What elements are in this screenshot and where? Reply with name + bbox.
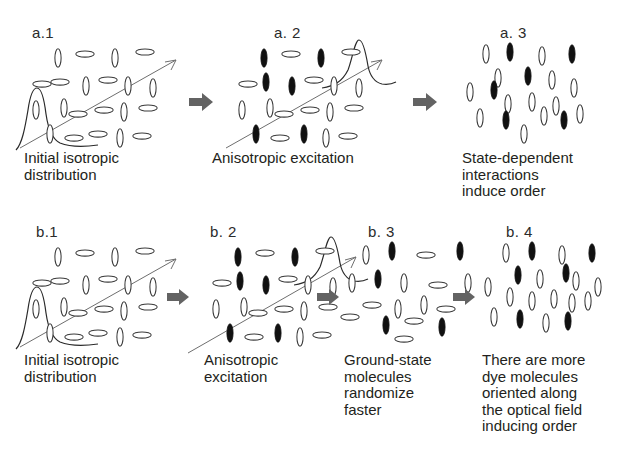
flow-arrow-b2-b3 — [316, 288, 340, 310]
molecule-ellipse — [51, 79, 69, 85]
molecule-ellipse — [125, 77, 131, 95]
molecule-ellipse — [529, 292, 535, 310]
molecule-ellipse — [553, 97, 559, 115]
molecule-ellipse — [267, 99, 273, 117]
molecule-ellipse — [549, 71, 555, 89]
molecule-ellipse — [316, 248, 334, 254]
molecule-ellipse — [237, 272, 243, 290]
molecule-ellipse — [33, 81, 51, 87]
molecule-ellipse — [517, 310, 523, 328]
molecule-ellipse — [263, 276, 269, 294]
molecule-ellipse — [139, 105, 157, 111]
panel-caption-a3: State-dependent interactions induce orde… — [462, 150, 632, 200]
molecule-ellipse — [136, 248, 154, 254]
molecule-ellipse — [577, 105, 583, 123]
panel-caption-b1: Initial isotropic distribution — [24, 352, 199, 385]
molecule-ellipse — [55, 49, 61, 67]
molecule-ellipse — [421, 296, 427, 314]
molecule-ellipse — [383, 316, 389, 334]
molecule-ellipse — [313, 332, 331, 338]
molecule-ellipse — [491, 81, 497, 99]
molecule-ellipse — [405, 318, 423, 324]
molecule-ellipse — [323, 129, 329, 147]
molecule-ellipse — [99, 77, 117, 83]
molecule-ellipse — [297, 328, 303, 346]
molecule-ellipse — [121, 302, 127, 320]
panel-stage-a1 — [12, 44, 192, 154]
molecule-ellipse — [89, 131, 107, 137]
molecule-ellipse — [401, 274, 407, 292]
molecule-ellipse — [569, 294, 575, 312]
molecule-ellipse — [33, 280, 51, 286]
molecule-ellipse — [69, 111, 87, 117]
molecule-ellipse — [429, 282, 447, 288]
molecule-ellipse — [417, 252, 435, 258]
molecule-ellipse — [89, 330, 107, 336]
molecule-ellipse — [331, 77, 337, 95]
molecule-ellipse — [227, 324, 233, 342]
molecule-ellipse — [565, 312, 571, 330]
molecule-ellipse — [305, 77, 323, 83]
molecule-ellipse — [363, 246, 369, 264]
panel-label-a2: a. 2 — [274, 24, 301, 41]
molecule-ellipse — [275, 111, 293, 117]
molecule-ellipse — [571, 79, 577, 97]
panel-label-b1: b.1 — [36, 223, 58, 240]
molecule-ellipse — [342, 49, 360, 55]
molecule-ellipse — [245, 334, 263, 340]
molecule-ellipse — [133, 332, 151, 338]
molecule-field-b4 — [476, 243, 626, 353]
panel-label-b2: b. 2 — [210, 223, 237, 240]
panel-caption-a2: Anisotropic excitation — [212, 150, 417, 167]
panel-caption-b2: Anisotropic excitation — [204, 352, 354, 385]
molecule-ellipse — [507, 288, 513, 306]
molecule-ellipse — [485, 278, 491, 296]
molecule-ellipse — [213, 300, 219, 318]
molecule-ellipse — [363, 302, 381, 308]
molecule-ellipse — [249, 310, 267, 316]
molecule-ellipse — [318, 49, 324, 67]
panel-stage-a2 — [218, 44, 398, 154]
molecule-ellipse — [301, 302, 307, 320]
molecule-ellipse — [65, 135, 83, 141]
distribution-curve-a1 — [16, 88, 98, 150]
molecule-ellipse — [585, 292, 591, 310]
molecule-ellipse — [327, 103, 333, 121]
molecule-ellipse — [507, 43, 513, 61]
molecule-ellipse — [69, 310, 87, 316]
molecule-ellipse — [521, 125, 527, 143]
molecule-ellipse — [345, 105, 363, 111]
molecule-ellipse — [213, 280, 231, 286]
molecule-ellipse — [121, 103, 127, 121]
molecule-ellipse — [289, 77, 295, 95]
molecule-ellipse — [256, 250, 274, 256]
panel-label-b3: b. 3 — [368, 223, 395, 240]
molecule-ellipse — [76, 250, 94, 256]
flow-arrow-a1-a2 — [188, 92, 214, 116]
molecule-ellipse — [529, 242, 535, 260]
molecule-ellipse — [301, 125, 307, 143]
molecule-ellipse — [95, 306, 113, 312]
molecule-ellipse — [503, 111, 509, 129]
molecule-ellipse — [349, 274, 355, 292]
molecule-ellipse — [543, 314, 549, 332]
molecule-ellipse — [241, 298, 247, 316]
molecule-ellipse — [235, 248, 241, 266]
molecule-ellipse — [117, 328, 123, 346]
molecule-ellipse — [395, 300, 401, 318]
panel-stage-a3 — [452, 44, 622, 154]
panel-label-a3: a. 3 — [500, 24, 527, 41]
molecule-ellipse — [439, 318, 445, 336]
molecule-ellipse — [47, 324, 53, 342]
molecule-ellipse — [99, 276, 117, 282]
flow-arrow-b3-b4 — [452, 288, 476, 310]
molecule-ellipse — [395, 336, 413, 342]
molecule-ellipse — [261, 49, 267, 67]
molecule-ellipse — [563, 264, 569, 282]
molecule-ellipse — [491, 308, 497, 326]
molecule-ellipse — [457, 242, 463, 260]
molecule-ellipse — [112, 49, 118, 67]
molecule-ellipse — [239, 101, 245, 119]
panel-label-b4: b. 4 — [506, 223, 533, 240]
molecule-ellipse — [47, 125, 53, 143]
